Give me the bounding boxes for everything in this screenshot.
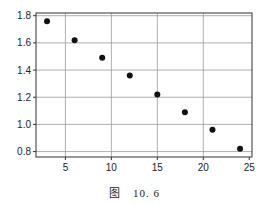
x-tick-label: 10 [106,162,118,173]
plot-frame [36,13,252,157]
y-tick-label: 1.2 [17,92,31,103]
y-axis-ticks: 0.81.01.21.41.61.8 [17,10,36,157]
data-point [209,127,215,133]
y-tick-label: 1.4 [17,65,31,76]
x-axis-ticks: 510152025 [63,157,256,173]
caption-prefix: 图 [109,187,121,199]
grid-lines [36,13,252,157]
data-point [182,109,188,115]
x-tick-label: 5 [63,162,69,173]
data-point [72,37,78,43]
data-points [44,18,243,152]
data-point [99,55,105,61]
data-point [154,92,160,98]
x-tick-label: 15 [152,162,164,173]
y-tick-label: 1.6 [17,37,31,48]
y-tick-label: 1.8 [17,10,31,21]
data-point [127,72,133,78]
data-point [237,146,243,152]
x-tick-label: 25 [244,162,256,173]
y-tick-label: 1.0 [17,119,31,130]
figure-caption: 图 10. 6 [0,184,269,200]
y-tick-label: 0.8 [17,146,31,157]
caption-number: 10. 6 [133,187,160,199]
scatter-chart: 0.81.01.21.41.61.8 510152025 [0,0,269,184]
data-point [44,18,50,24]
x-tick-label: 20 [198,162,210,173]
